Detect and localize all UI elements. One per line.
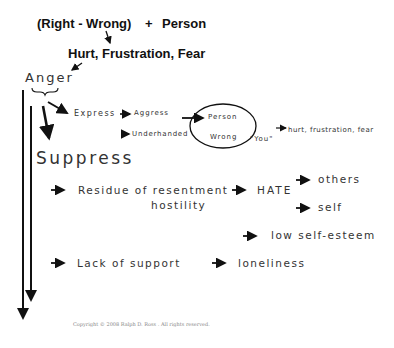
circle-person-label: Person (208, 114, 238, 121)
self-label: self (318, 202, 343, 213)
copyright-notice: Copyright © 2008 Ralph D. Ross . All rig… (73, 322, 210, 327)
arrow-icon (43, 106, 49, 138)
circle-wrong-label: Wrong (210, 134, 238, 141)
root-anger: Anger (25, 71, 74, 84)
others-label: others (318, 174, 360, 185)
lack-of-support-label: Lack of support (77, 258, 181, 269)
result-emotions: Hurt, Frustration, Fear (68, 47, 205, 60)
suppress-label: Suppress (36, 150, 134, 167)
low-self-esteem-label: low self-esteem (271, 230, 376, 241)
formula-right: Person (162, 17, 206, 30)
arrow-icon (48, 102, 67, 113)
loneliness-label: loneliness (238, 258, 305, 269)
formula-plus: + (145, 17, 153, 30)
express-label: Express (74, 110, 116, 118)
brace-icon (32, 88, 58, 95)
you-label: "You" (250, 136, 274, 143)
formula-left: (Right - Wrong) (37, 17, 131, 30)
underhanded-label: Underhanded (132, 131, 188, 138)
person-wrong-ellipse (190, 104, 256, 148)
arrow-icon (72, 63, 82, 70)
hate-label: HATE (257, 185, 292, 196)
residue-line1: Residue of resentment (78, 185, 228, 196)
aggress-label: Aggress (134, 110, 169, 117)
arrow-icon (106, 31, 110, 43)
express-outcome: hurt, frustration, fear (288, 127, 374, 134)
residue-line2: hostility (151, 200, 206, 211)
